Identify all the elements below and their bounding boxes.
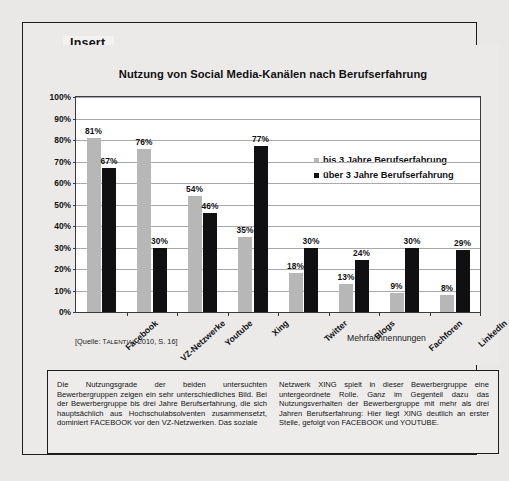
chart-bar: 13% <box>339 284 353 312</box>
chart-bar: 18% <box>289 273 303 312</box>
chart-bar: 54% <box>188 196 202 312</box>
bar-value-label: 81% <box>85 126 102 136</box>
chart-bar: 29% <box>456 250 470 312</box>
y-axis-tick <box>73 205 76 206</box>
chart-bar: 67% <box>102 168 116 312</box>
chart-bar: 46% <box>203 213 217 312</box>
chart-bar: 30% <box>153 248 167 313</box>
chart-bar: 35% <box>238 237 252 312</box>
y-axis-tick-label: 50% <box>54 200 71 210</box>
bar-value-label: 67% <box>101 156 118 166</box>
y-axis-tick <box>73 183 76 184</box>
y-axis-tick-label: 90% <box>54 114 71 124</box>
chart-bar: 9% <box>390 293 404 312</box>
bar-value-label: 30% <box>303 236 320 246</box>
bar-value-label: 30% <box>151 236 168 246</box>
chart-legend: bis 3 Jahre Berufserfahrung über 3 Jahre… <box>314 153 454 183</box>
chart-bar: 77% <box>254 146 268 312</box>
x-axis-category-label: Youtube <box>223 318 255 348</box>
y-axis-tick-label: 10% <box>54 286 71 296</box>
y-axis-tick <box>73 119 76 120</box>
bar-value-label: 77% <box>252 134 269 144</box>
y-axis-tick <box>73 248 76 249</box>
y-axis-tick <box>73 140 76 141</box>
x-axis-tick <box>177 312 178 316</box>
y-axis-tick <box>73 269 76 270</box>
chart-source-note: [Quelle: TALENTIAL 2010, S. 16] <box>75 337 178 346</box>
legend-label-series-2: über 3 Jahre Berufserfahrung <box>323 168 454 183</box>
legend-label-series-1: bis 3 Jahre Berufserfahrung <box>323 153 447 168</box>
y-axis-tick-label: 40% <box>54 221 71 231</box>
x-axis-tick <box>430 312 431 316</box>
y-axis-tick <box>73 162 76 163</box>
insert-frame: Insert Nutzung von Social Media-Kanälen … <box>22 22 477 455</box>
bar-value-label: 24% <box>353 248 370 258</box>
y-axis-tick-label: 0% <box>59 307 71 317</box>
bar-value-label: 9% <box>390 281 402 291</box>
y-axis-tick-label: 100% <box>50 92 71 102</box>
x-axis-category-label: Twitter <box>322 318 349 344</box>
commentary-text-block: Die Nutzungsgrade der beiden untersuchte… <box>47 370 499 454</box>
bar-value-label: 13% <box>338 272 355 282</box>
y-axis-tick <box>73 312 76 313</box>
chart-bar: 81% <box>87 138 101 312</box>
commentary-right-column: Netzwerk XING spielt in dieser Bewerberg… <box>279 380 489 446</box>
x-axis-tick <box>379 312 380 316</box>
bar-value-label: 35% <box>237 225 254 235</box>
y-axis-tick <box>73 291 76 292</box>
x-axis-category-label: VZ-Netzwerke <box>178 318 227 363</box>
bar-value-label: 29% <box>454 238 471 248</box>
bar-value-label: 18% <box>287 261 304 271</box>
y-axis-tick-label: 80% <box>54 135 71 145</box>
y-axis-tick <box>73 226 76 227</box>
x-axis-tick <box>278 312 279 316</box>
chart-bar: 8% <box>440 295 454 312</box>
y-axis-tick-label: 70% <box>54 157 71 167</box>
y-axis-tick-label: 30% <box>54 243 71 253</box>
chart-title: Nutzung von Social Media-Kanälen nach Be… <box>47 68 499 80</box>
bar-value-label: 30% <box>404 236 421 246</box>
bar-value-label: 46% <box>202 201 219 211</box>
x-axis-tick <box>127 312 128 316</box>
x-axis-tick <box>228 312 229 316</box>
chart-bar: 24% <box>355 260 369 312</box>
chart-gridline <box>76 97 480 98</box>
legend-item-series-2: über 3 Jahre Berufserfahrung <box>314 168 454 183</box>
x-axis-tick <box>480 312 481 316</box>
bar-value-label: 76% <box>136 137 153 147</box>
chart-plot-area: bis 3 Jahre Berufserfahrung über 3 Jahre… <box>75 96 481 313</box>
bar-value-label: 8% <box>441 283 453 293</box>
y-axis-tick-label: 60% <box>54 178 71 188</box>
y-axis-tick-label: 20% <box>54 264 71 274</box>
legend-item-series-1: bis 3 Jahre Berufserfahrung <box>314 153 454 168</box>
legend-swatch-icon <box>314 173 319 178</box>
bar-value-label: 54% <box>186 184 203 194</box>
chart-figure: Nutzung von Social Media-Kanälen nach Be… <box>47 45 499 365</box>
chart-gridline <box>76 119 480 120</box>
chart-multiple-answers-note: Mehrfachnennungen <box>347 333 426 343</box>
x-axis-category-label: LinkedIn <box>476 318 509 349</box>
chart-bar: 30% <box>405 248 419 313</box>
chart-bar: 76% <box>137 149 151 312</box>
chart-bar: 30% <box>304 248 318 313</box>
x-axis-category-label: Fachforen <box>427 318 465 353</box>
x-axis-tick <box>329 312 330 316</box>
x-axis-category-label: Xing <box>270 318 291 338</box>
y-axis-tick <box>73 97 76 98</box>
commentary-left-column: Die Nutzungsgrade der beiden untersuchte… <box>57 380 267 446</box>
x-axis-category-label: Facebook <box>124 318 161 352</box>
